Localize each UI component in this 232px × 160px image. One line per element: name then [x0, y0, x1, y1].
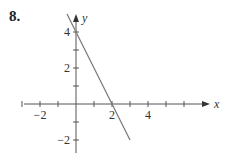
- x-tick-label: 4: [145, 108, 151, 122]
- y-axis-label: y: [81, 11, 88, 25]
- y-tick-label: −2: [57, 133, 70, 147]
- line-chart: xy −22442−2: [0, 0, 232, 160]
- x-tick-label: 2: [109, 108, 115, 122]
- tick-labels: −22442−2: [34, 25, 151, 147]
- axes: xy: [24, 11, 220, 153]
- y-tick-label: 2: [64, 61, 70, 75]
- y-axis-arrow-icon: [73, 14, 79, 22]
- x-axis-label: x: [213, 97, 220, 111]
- x-tick-label: −2: [34, 108, 47, 122]
- x-axis-arrow-icon: [202, 101, 210, 107]
- y-tick-label: 4: [64, 25, 70, 39]
